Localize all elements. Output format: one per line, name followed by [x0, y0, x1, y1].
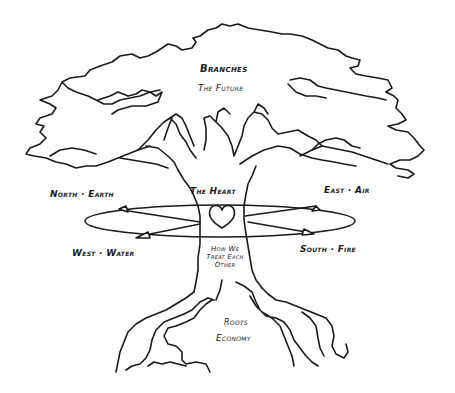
branch-lines — [120, 104, 356, 170]
label-the-future: The Future — [198, 83, 243, 93]
label-economy: Economy — [216, 333, 251, 343]
label-branches: Branches — [200, 63, 248, 75]
label-trunk-line3: Other — [200, 261, 250, 269]
label-trunk-line2: Treat Each — [200, 253, 250, 261]
tree-diagram: Branches The Future The Heart North · Ea… — [0, 0, 455, 393]
label-roots: Roots — [224, 318, 248, 327]
label-the-heart: The Heart — [190, 186, 236, 196]
heart-shape — [210, 206, 235, 229]
canopy-outline — [26, 24, 424, 178]
label-west-water: West · Water — [72, 248, 135, 258]
label-south-fire: South · Fire — [300, 244, 356, 254]
label-trunk-line1: How We — [200, 245, 250, 253]
label-trunk: How We Treat Each Other — [200, 245, 250, 269]
label-north-earth: North · Earth — [50, 189, 114, 199]
trunk-right — [244, 166, 262, 288]
label-east-air: East · Air — [324, 185, 370, 195]
